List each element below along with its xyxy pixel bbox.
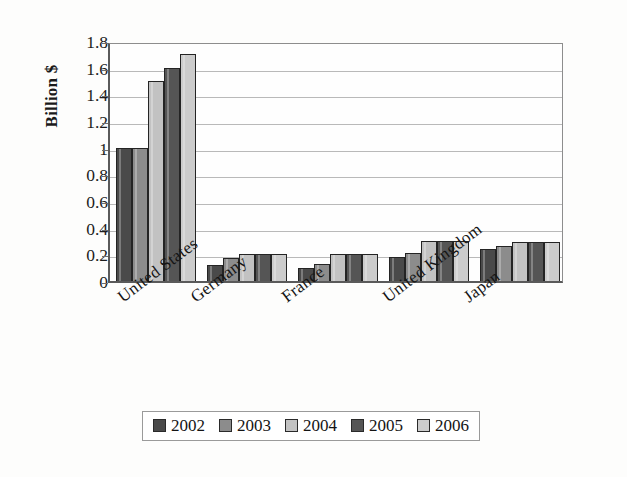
y-tick-mark [102, 283, 108, 284]
bar[interactable] [148, 81, 164, 281]
legend-item[interactable]: 2002 [153, 417, 205, 434]
y-axis-ticks: 1.81.61.41.210.80.60.40.20 [52, 43, 108, 283]
bar[interactable] [330, 254, 346, 281]
bar-group [480, 44, 560, 281]
bar-group [298, 44, 378, 281]
chart-legend: 20022003200420052006 [142, 411, 480, 441]
legend-label: 2004 [303, 417, 337, 434]
legend-swatch-icon [285, 419, 298, 432]
legend-label: 2003 [237, 417, 271, 434]
legend-swatch-icon [219, 419, 232, 432]
bar[interactable] [346, 254, 362, 281]
bar[interactable] [544, 242, 560, 281]
legend-label: 2005 [369, 417, 403, 434]
chart-page: Billion $ 1.81.61.41.210.80.60.40.20 Uni… [0, 0, 627, 477]
bar[interactable] [271, 254, 287, 281]
bar-group [207, 44, 287, 281]
legend-item[interactable]: 2004 [285, 417, 337, 434]
legend-swatch-icon [153, 419, 166, 432]
legend-item[interactable]: 2005 [351, 417, 403, 434]
bar[interactable] [528, 242, 544, 281]
legend-swatch-icon [351, 419, 364, 432]
bar[interactable] [255, 254, 271, 281]
legend-label: 2002 [171, 417, 205, 434]
bar[interactable] [116, 148, 132, 281]
legend-swatch-icon [417, 419, 430, 432]
legend-item[interactable]: 2006 [417, 417, 469, 434]
bar[interactable] [362, 254, 378, 281]
legend-item[interactable]: 2003 [219, 417, 271, 434]
bar[interactable] [132, 148, 148, 281]
bar[interactable] [512, 242, 528, 281]
legend-label: 2006 [435, 417, 469, 434]
